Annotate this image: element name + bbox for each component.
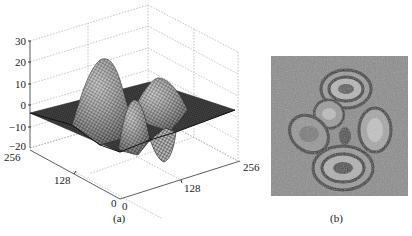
y-tick-label: 256 (4, 151, 21, 163)
y-axis: 256 128 0 (4, 150, 120, 209)
surface-plot: 30 20 10 0 −10 −20 256 128 0 0 128 256 (0, 0, 268, 236)
caption-b: (b) (330, 212, 343, 224)
x-tick-label: 128 (184, 182, 201, 194)
z-tick-label: 30 (15, 35, 27, 47)
z-tick-label: 0 (21, 99, 27, 111)
x-tick-label: 0 (122, 200, 128, 212)
x-tick-label: 256 (243, 161, 260, 173)
z-tick-label: 10 (15, 78, 27, 90)
y-tick-label: 128 (54, 174, 71, 186)
surface-plot-panel: 30 20 10 0 −10 −20 256 128 0 0 128 256 (0, 0, 268, 236)
fringe-image (271, 56, 408, 196)
z-tick-label: −10 (9, 121, 27, 133)
caption-a: (a) (113, 212, 125, 224)
surface-mesh (30, 59, 235, 162)
y-tick-label: 0 (111, 197, 117, 209)
z-axis: 30 20 10 0 −10 −20 (9, 35, 31, 152)
x-axis: 0 128 256 (120, 161, 260, 212)
z-tick-label: 20 (15, 56, 27, 68)
